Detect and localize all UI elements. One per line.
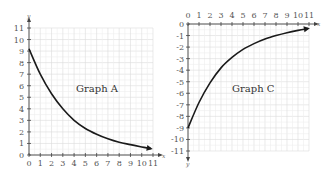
x-tick-label: 11 [148,159,158,168]
x-tick-label: 6 [251,11,256,20]
y-tick-label: 0 [179,20,184,29]
y-tick-label: -10 [171,135,184,144]
x-tick-label: 10 [293,11,303,20]
y-tick-label: 3 [19,116,24,125]
x-tick-label: 4 [229,11,234,20]
y-tick-label: 4 [19,105,24,114]
graph-c-y-label: y [185,160,190,168]
x-tick-label: 10 [137,159,147,168]
x-tick-label: 7 [262,11,267,20]
x-tick-label: 1 [38,159,43,168]
graph-a-x-label: x [162,152,166,159]
x-tick-label: 9 [284,11,289,20]
y-tick-label: 8 [19,59,24,68]
y-tick-label: -1 [176,32,184,41]
x-tick-label: 1 [196,11,201,20]
graph-a-y-label: y [26,12,31,20]
x-tick-label: 9 [128,159,133,168]
y-tick-label: 5 [19,93,24,102]
y-tick-label: 1 [19,139,24,148]
x-tick-label: 6 [94,159,99,168]
x-tick-label: 2 [207,11,212,20]
y-tick-label: 11 [14,24,24,33]
x-tick-label: 4 [72,159,77,168]
y-tick-label: 9 [19,47,24,56]
y-tick-label: -5 [176,78,184,87]
y-tick-label: 2 [19,128,24,137]
x-tick-label: 7 [105,159,110,168]
chart-canvas: 0123456789101101234567891011 01234567891… [0,0,335,178]
graph-c-title: Graph C [232,83,275,94]
y-tick-label: 7 [19,70,24,79]
x-tick-label: 8 [273,11,278,20]
x-tick-label: 2 [49,159,54,168]
curve-line [29,49,151,149]
x-tick-label: 8 [117,159,122,168]
curve-arrow-icon [146,145,152,151]
y-tick-label: -11 [171,147,184,156]
y-tick-label: 6 [19,82,24,91]
graph-c-x-label: x [317,20,321,27]
y-tick-label: -7 [176,101,184,110]
graph-a-title: Graph A [76,83,119,94]
x-tick-label: 3 [60,159,65,168]
y-tick-label: -9 [176,124,184,133]
y-tick-label: -3 [176,55,184,64]
x-tick-label: 5 [240,11,245,20]
x-tick-label: 0 [185,11,190,20]
curve-line [188,29,308,128]
x-tick-label: 3 [218,11,223,20]
x-tick-label: 0 [26,159,31,168]
y-tick-label: -2 [176,43,184,52]
y-tick-label: -4 [176,66,184,75]
y-tick-label: 0 [19,151,24,160]
x-tick-label: 11 [304,11,314,20]
y-tick-label: -8 [176,112,184,121]
x-tick-label: 5 [83,159,88,168]
y-tick-label: -6 [176,89,184,98]
y-tick-label: 10 [14,36,24,45]
